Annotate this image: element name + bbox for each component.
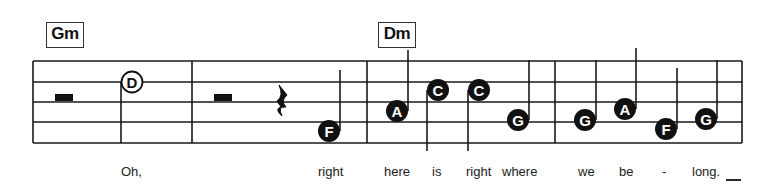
lyric-syllable: Oh, — [121, 164, 142, 179]
chord-symbol-gm: Gm — [46, 22, 84, 48]
lyric-syllable: is — [432, 164, 441, 179]
svg-text:D: D — [127, 74, 138, 91]
note-f: F — [318, 120, 340, 142]
lyric-syllable: where — [502, 164, 537, 179]
note-c: C — [468, 79, 490, 101]
lyric-syllable: be — [619, 164, 633, 179]
note-a: A — [386, 100, 408, 122]
svg-text:C: C — [433, 82, 444, 99]
svg-text:G: G — [579, 112, 591, 129]
lyric-syllable: long. — [692, 164, 720, 179]
lyric-syllable: - — [662, 164, 666, 179]
chord-symbol-dm: Dm — [378, 22, 416, 48]
quarter-rest-icon — [277, 85, 287, 116]
note-g: G — [507, 109, 529, 131]
svg-text:F: F — [324, 123, 333, 140]
lyric-syllable: here — [384, 164, 410, 179]
lyric-syllable: right — [466, 164, 491, 179]
note-d: D — [122, 72, 143, 93]
svg-text:C: C — [474, 82, 485, 99]
note-f: F — [655, 118, 677, 140]
svg-text:F: F — [661, 121, 670, 138]
svg-text:G: G — [700, 111, 712, 128]
svg-text:A: A — [620, 101, 631, 118]
half-rest-icon — [214, 94, 232, 101]
lyric-syllable: right — [318, 164, 343, 179]
svg-text:A: A — [392, 103, 403, 120]
note-c: C — [427, 79, 449, 101]
rests — [55, 85, 287, 116]
note-a: A — [614, 98, 636, 120]
half-rest-icon — [55, 94, 73, 101]
lyric-syllable: we — [578, 164, 595, 179]
note-g: G — [574, 109, 596, 131]
note-g: G — [695, 108, 717, 130]
svg-text:G: G — [512, 112, 524, 129]
